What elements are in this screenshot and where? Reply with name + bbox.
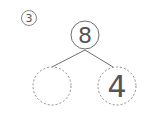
number-bond-diagram: 3 8 4 bbox=[0, 0, 149, 118]
whole-value: 8 bbox=[78, 23, 92, 48]
connector-left bbox=[52, 50, 85, 67]
whole-circle: 8 bbox=[71, 21, 99, 49]
part-circle-right: 4 bbox=[98, 67, 136, 105]
part-circle-left[interactable] bbox=[33, 67, 71, 105]
problem-number-badge: 3 bbox=[22, 11, 37, 26]
problem-number: 3 bbox=[26, 12, 33, 25]
connector-right bbox=[85, 50, 113, 67]
part-right-value: 4 bbox=[107, 69, 126, 104]
